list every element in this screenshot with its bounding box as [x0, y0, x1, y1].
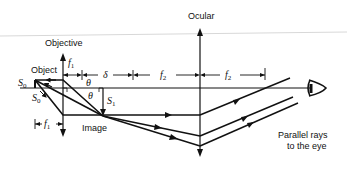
ocular-label: Ocular: [188, 12, 215, 21]
theta-symbol-2: θ: [88, 91, 93, 101]
ocular-rays: [103, 115, 200, 146]
f2-first-symbol: f2: [160, 70, 166, 82]
f1-bottom-symbol: f1: [44, 119, 50, 131]
parallel-rays-label-line1: Parallel rays: [278, 131, 328, 140]
delta-symbol: δ: [103, 70, 108, 80]
parallel-rays-label-line2: to the eye: [287, 142, 327, 151]
f2-second-symbol: f2: [225, 70, 231, 82]
top-rule: [0, 32, 347, 36]
eye-icon: [308, 80, 326, 96]
object-label: Object: [31, 66, 57, 75]
S0-symbol: S0: [18, 78, 27, 90]
S1-symbol: S1: [107, 96, 116, 108]
S0-prime-symbol: S0: [32, 93, 41, 105]
f1-top-symbol: f1: [68, 58, 74, 70]
theta-symbol-1: θ: [86, 78, 91, 88]
ocular-lens: [197, 28, 203, 157]
microscope-diagram: Ocular Objective Object Image Parallel r…: [0, 0, 347, 172]
image-label: Image: [82, 124, 107, 133]
objective-label: Objective: [45, 39, 83, 48]
